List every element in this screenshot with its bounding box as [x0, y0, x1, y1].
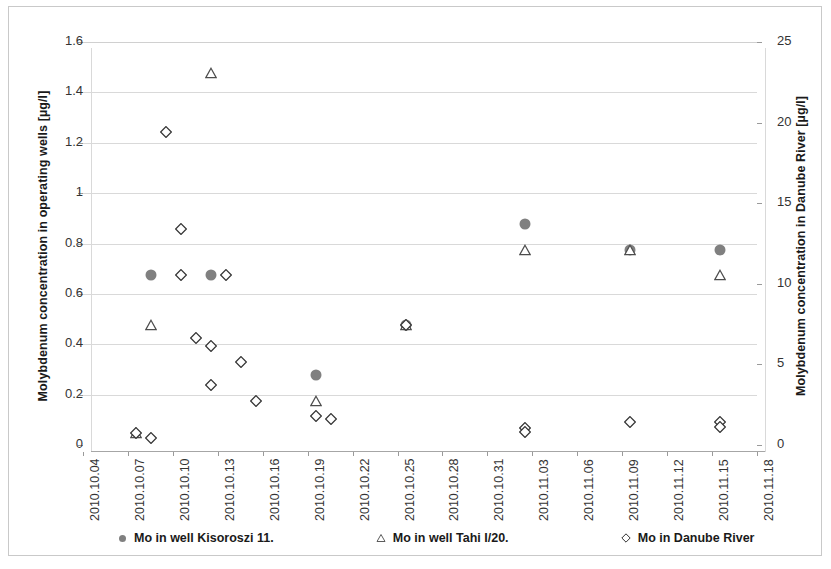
data-point — [175, 269, 187, 281]
x-axis-tick-mark — [218, 452, 219, 456]
x-axis-tick-label: 2010.10.13 — [223, 458, 237, 521]
y-axis-right-tick-label: 5 — [777, 355, 817, 370]
data-point — [310, 410, 322, 422]
legend-item[interactable]: Mo in Danube River — [620, 531, 755, 545]
y-axis-left-tick-label: 0.8 — [37, 235, 83, 250]
x-axis-tick-mark — [442, 452, 443, 456]
y-axis-right-tick-label: 20 — [777, 114, 817, 129]
data-point — [205, 269, 216, 280]
legend-triangle-icon — [375, 532, 387, 544]
x-axis-tick-label: 2010.10.16 — [268, 458, 282, 521]
x-axis-tick-label: 2010.10.07 — [133, 458, 147, 521]
data-point — [714, 421, 726, 433]
x-axis-tick-mark — [398, 452, 399, 456]
x-axis-tick-label: 2010.10.10 — [178, 458, 192, 521]
data-point — [235, 356, 247, 368]
data-point — [145, 269, 156, 280]
data-point — [145, 432, 157, 444]
data-point — [160, 126, 172, 138]
plot-area — [91, 48, 765, 451]
x-axis-tick-mark — [128, 452, 129, 456]
data-point — [715, 244, 726, 255]
x-axis-tick-mark — [353, 452, 354, 456]
data-point — [190, 332, 202, 344]
legend-diamond-icon — [620, 532, 632, 544]
x-axis-tick-label: 2010.11.18 — [762, 459, 776, 521]
y-axis-left-tick-label: 0.4 — [37, 335, 83, 350]
legend-label: Mo in Danube River — [638, 531, 755, 545]
x-axis-tick-mark — [532, 452, 533, 456]
y-axis-right-line — [765, 48, 766, 452]
y-axis-left-tick-label: 0.2 — [37, 386, 83, 401]
y-axis-right-tick-mark — [757, 42, 762, 43]
data-point — [325, 413, 337, 425]
x-axis-tick-mark — [308, 452, 309, 456]
legend-label: Mo in well Kisoroszi 11. — [134, 531, 274, 545]
legend-label: Mo in well Tahi I/20. — [393, 531, 509, 545]
gridline — [83, 42, 757, 43]
y-axis-left-tick-label: 1.2 — [37, 134, 83, 149]
x-axis-tick-label: 2010.10.28 — [447, 458, 461, 521]
x-axis-tick-label: 2010.11.12 — [672, 459, 686, 521]
y-axis-right-tick-label: 15 — [777, 194, 817, 209]
chart-screenshot: Molybdenum concentration in operating we… — [0, 0, 831, 569]
data-point — [310, 370, 321, 381]
x-axis-tick-label: 2010.11.09 — [627, 459, 641, 521]
x-axis-tick-mark — [263, 452, 264, 456]
x-axis-tick-mark — [577, 452, 578, 456]
legend-item[interactable]: Mo in well Tahi I/20. — [375, 531, 509, 545]
data-point — [624, 244, 636, 256]
data-point — [250, 395, 262, 407]
x-axis-tick-label: 2010.10.25 — [403, 458, 417, 521]
x-axis-tick-mark — [622, 452, 623, 456]
data-point — [175, 223, 187, 235]
x-axis-tick-label: 2010.11.06 — [582, 459, 596, 521]
data-point — [205, 67, 217, 79]
data-point — [130, 427, 142, 439]
chart-frame: Molybdenum concentration in operating we… — [8, 6, 822, 556]
x-axis-tick-mark — [712, 452, 713, 456]
x-axis-tick-mark — [83, 452, 84, 456]
x-axis-tick-label: 2010.10.19 — [313, 458, 327, 521]
legend-circle-icon — [116, 532, 128, 544]
data-point — [714, 269, 726, 281]
y-axis-right-tick-label: 10 — [777, 275, 817, 290]
data-point — [220, 269, 232, 281]
x-axis-tick-label: 2010.10.22 — [358, 458, 372, 521]
y-axis-right-title: Molybdenum concentration in Danube River… — [794, 46, 808, 446]
data-point — [624, 416, 636, 428]
y-axis-right-tick-label: 25 — [777, 33, 817, 48]
data-point — [205, 340, 217, 352]
x-axis-line — [91, 451, 765, 452]
data-point — [205, 379, 217, 391]
data-point — [145, 319, 157, 331]
y-axis-right-tick-label: 0 — [777, 436, 817, 451]
legend-item[interactable]: Mo in well Kisoroszi 11. — [116, 531, 274, 545]
data-point — [519, 426, 531, 438]
y-axis-left-tick-label: 1.6 — [37, 33, 83, 48]
x-axis-tick-mark — [667, 452, 668, 456]
x-axis-tick-label: 2010.10.04 — [88, 458, 102, 521]
data-point — [519, 244, 531, 256]
x-axis-tick-mark — [173, 452, 174, 456]
y-axis-left-tick-label: 0 — [37, 436, 83, 451]
x-axis-tick-label: 2010.11.03 — [537, 459, 551, 521]
y-axis-left-tick-label: 0.6 — [37, 285, 83, 300]
x-axis-tick-label: 2010.11.15 — [717, 459, 731, 521]
data-point — [310, 395, 322, 407]
data-point — [400, 319, 412, 331]
x-axis-tick-mark — [487, 452, 488, 456]
x-axis-tick-mark — [757, 452, 758, 456]
data-point — [520, 219, 531, 230]
y-axis-left-tick-label: 1.4 — [37, 83, 83, 98]
y-axis-left-tick-label: 1 — [37, 184, 83, 199]
chart-legend: Mo in well Kisoroszi 11.Mo in well Tahi … — [17, 531, 831, 555]
x-axis-tick-label: 2010.10.31 — [492, 458, 506, 521]
